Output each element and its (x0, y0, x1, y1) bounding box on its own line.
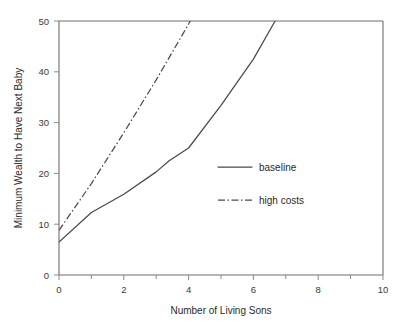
y-axis-title: Minimum Wealth to Have Next Baby (13, 68, 24, 228)
x-tick-label-8: 8 (316, 284, 321, 295)
y-tick-label-20: 20 (38, 168, 49, 179)
y-tick-label-0: 0 (44, 270, 49, 281)
x-axis-title: Number of Living Sons (170, 305, 271, 316)
series-group (59, 21, 275, 242)
series-line-baseline (59, 21, 275, 242)
legend-label-high-costs: high costs (259, 195, 304, 206)
plot-frame (59, 21, 383, 275)
x-axis-ticks: 0 2 4 6 8 10 (56, 275, 388, 295)
y-tick-label-30: 30 (38, 117, 49, 128)
x-tick-label-4: 4 (186, 284, 191, 295)
legend-label-baseline: baseline (259, 162, 297, 173)
x-tick-label-0: 0 (56, 284, 61, 295)
y-tick-label-40: 40 (38, 66, 49, 77)
chart-canvas: 0 10 20 30 40 50 0 2 4 6 8 10 (0, 0, 405, 329)
y-axis-ticks: 0 10 20 30 40 50 (38, 16, 59, 281)
series-line-high-costs (59, 21, 190, 230)
legend: baseline high costs (218, 162, 304, 206)
y-tick-label-50: 50 (38, 16, 49, 27)
x-tick-label-10: 10 (378, 284, 389, 295)
x-tick-label-2: 2 (121, 284, 126, 295)
y-tick-label-10: 10 (38, 219, 49, 230)
x-tick-label-6: 6 (251, 284, 256, 295)
chart-figure: 0 10 20 30 40 50 0 2 4 6 8 10 (0, 0, 405, 329)
